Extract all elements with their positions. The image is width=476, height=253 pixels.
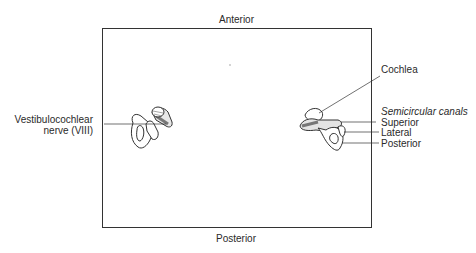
semicircular-canals-heading: Semicircular canals bbox=[381, 106, 468, 117]
right-inner-ear-icon bbox=[300, 108, 345, 150]
cochlea-label: Cochlea bbox=[381, 64, 418, 75]
vestibulocochlear-label-line2: nerve (VIII) bbox=[10, 125, 93, 136]
vestibulocochlear-label-line1: Vestibulocochlear bbox=[10, 114, 93, 125]
posterior-canal-label: Posterior bbox=[381, 138, 421, 149]
cochlea-pointer bbox=[319, 76, 380, 113]
lateral-canal-label: Lateral bbox=[381, 127, 412, 138]
left-inner-ear-icon bbox=[131, 107, 172, 148]
vestibulocochlear-label: Vestibulocochlear nerve (VIII) bbox=[10, 114, 93, 136]
